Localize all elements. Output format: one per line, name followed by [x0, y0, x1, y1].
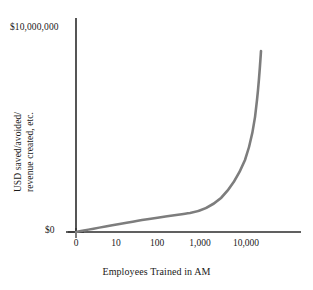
x-axis-title: Employees Trained in AM: [0, 266, 313, 277]
x-tick-label-10000: 10,000: [233, 238, 259, 248]
exponential-growth-curve: [76, 51, 261, 232]
x-tick-label-0: 0: [74, 238, 79, 248]
y-axis-title: USD saved/avoided/ revenue created, etc.: [12, 82, 36, 222]
y-axis-title-line1: USD saved/avoided/: [13, 112, 23, 192]
y-axis-title-line2: revenue created, etc.: [25, 112, 35, 192]
y-axis-max-label: $10,000,000: [10, 22, 59, 32]
chart-figure: $10,000,000 $0 USD saved/avoided/ revenu…: [0, 0, 313, 290]
y-axis-min-label: $0: [45, 225, 55, 235]
x-tick-label-100: 100: [150, 238, 164, 248]
x-tick-label-1000: 1,000: [189, 238, 210, 248]
x-tick-label-10: 10: [111, 238, 121, 248]
